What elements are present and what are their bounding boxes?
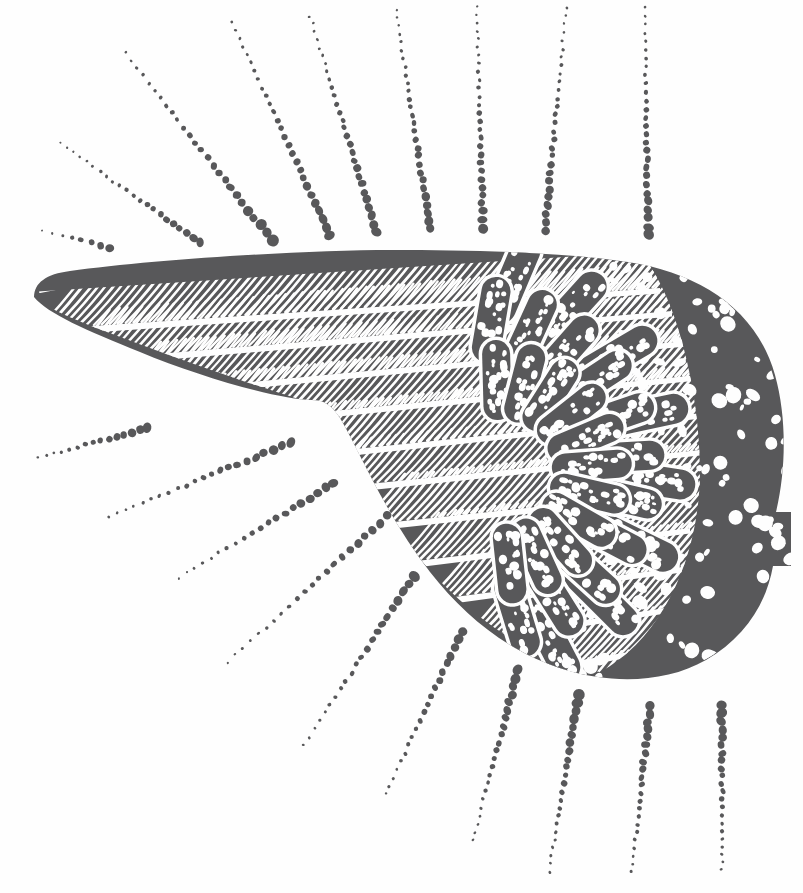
ray-dot — [423, 201, 431, 209]
ray-dot — [149, 497, 153, 501]
ray-dot — [631, 863, 634, 866]
ray-dot — [720, 845, 724, 848]
artboard: Winged Wing Emblem Woodcut — [0, 0, 803, 893]
ray-dot — [66, 147, 68, 149]
ray-dot — [569, 724, 577, 731]
wing-illustration — [0, 0, 803, 893]
